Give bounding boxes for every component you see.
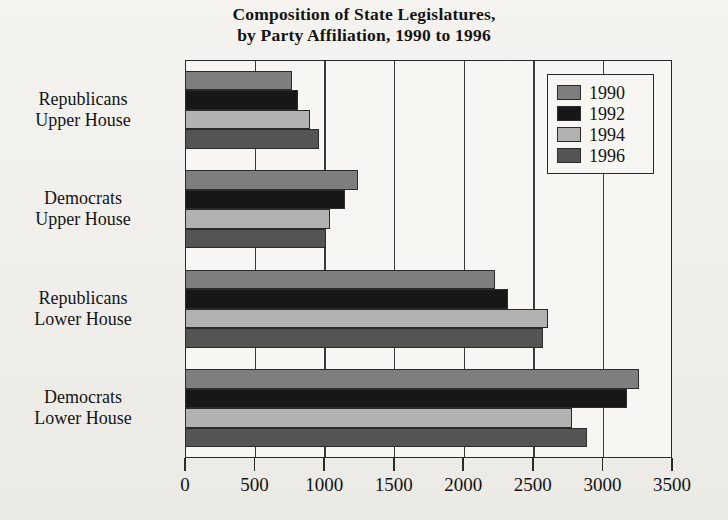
x-tick-2000 xyxy=(462,458,464,471)
bar-1994-republicans-lower-house xyxy=(185,309,548,329)
legend-swatch-1992 xyxy=(557,106,581,121)
category-label-line: Lower House xyxy=(0,309,178,330)
category-label-republicans-upper-house: RepublicansUpper House xyxy=(0,89,178,131)
chart-title: Composition of State Legislatures, by Pa… xyxy=(0,4,728,46)
category-label-line: Upper House xyxy=(0,110,178,131)
chart-page: Composition of State Legislatures, by Pa… xyxy=(0,0,728,520)
x-tick-label-3500: 3500 xyxy=(627,474,717,496)
category-label-republicans-lower-house: RepublicansLower House xyxy=(0,288,178,330)
legend-label-1992: 1992 xyxy=(589,104,625,124)
bar-1994-democrats-lower-house xyxy=(185,408,572,428)
category-label-democrats-upper-house: DemocratsUpper House xyxy=(0,188,178,230)
bar-1990-republicans-upper-house xyxy=(185,71,292,91)
x-tick-500 xyxy=(254,458,256,471)
bar-1992-republicans-upper-house xyxy=(185,90,298,110)
legend-swatch-1994 xyxy=(557,127,581,142)
legend-item-1990: 1990 xyxy=(557,82,645,103)
bar-1996-democrats-upper-house xyxy=(185,229,326,249)
legend-label-1990: 1990 xyxy=(589,83,625,103)
bar-1996-republicans-lower-house xyxy=(185,328,543,348)
category-label-line: Democrats xyxy=(0,387,178,408)
legend-swatch-1990 xyxy=(557,85,581,100)
x-tick-3000 xyxy=(602,458,604,471)
legend-label-1994: 1994 xyxy=(589,125,625,145)
bar-1992-democrats-lower-house xyxy=(185,389,627,409)
bar-1996-republicans-upper-house xyxy=(185,129,319,149)
legend-item-1992: 1992 xyxy=(557,103,645,124)
bar-1990-democrats-lower-house xyxy=(185,369,639,389)
legend-item-1994: 1994 xyxy=(557,124,645,145)
category-label-line: Republicans xyxy=(0,288,178,309)
legend-swatch-1996 xyxy=(557,148,581,163)
bar-1994-republicans-upper-house xyxy=(185,110,310,130)
legend: 1990199219941996 xyxy=(547,74,654,174)
bar-1990-democrats-upper-house xyxy=(185,170,358,190)
bar-1990-republicans-lower-house xyxy=(185,270,495,290)
legend-item-1996: 1996 xyxy=(557,145,645,166)
category-label-line: Republicans xyxy=(0,89,178,110)
bar-1992-democrats-upper-house xyxy=(185,190,345,210)
bar-1996-democrats-lower-house xyxy=(185,428,587,448)
x-tick-1000 xyxy=(323,458,325,471)
x-tick-3500 xyxy=(671,458,673,471)
bar-1994-democrats-upper-house xyxy=(185,209,330,229)
x-tick-2500 xyxy=(532,458,534,471)
category-label-line: Lower House xyxy=(0,408,178,429)
chart-title-line-1: Composition of State Legislatures, xyxy=(0,4,728,25)
category-label-line: Upper House xyxy=(0,209,178,230)
x-tick-1500 xyxy=(393,458,395,471)
category-label-democrats-lower-house: DemocratsLower House xyxy=(0,387,178,429)
x-tick-0 xyxy=(184,458,186,471)
category-label-line: Democrats xyxy=(0,188,178,209)
chart-title-line-2: by Party Affiliation, 1990 to 1996 xyxy=(0,25,728,46)
bar-1992-republicans-lower-house xyxy=(185,289,508,309)
legend-label-1996: 1996 xyxy=(589,146,625,166)
